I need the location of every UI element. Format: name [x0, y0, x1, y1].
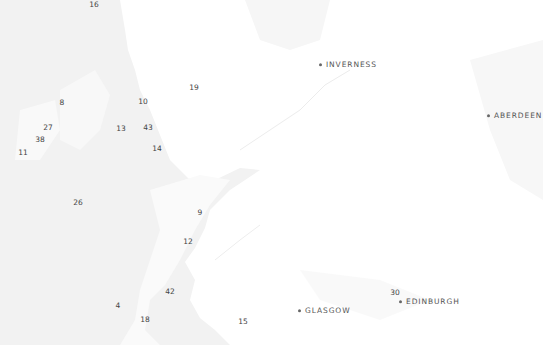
- map-marker[interactable]: 16: [89, 1, 99, 9]
- map-marker[interactable]: 43: [143, 124, 153, 132]
- map-marker[interactable]: 8: [60, 99, 65, 107]
- city-name: INVERNESS: [326, 61, 377, 69]
- city-dot-icon: [487, 115, 490, 118]
- city-name: GLASGOW: [305, 307, 351, 315]
- city-label-edinburgh[interactable]: EDINBURGH: [399, 298, 460, 306]
- map-marker[interactable]: 38: [35, 136, 45, 144]
- city-dot-icon: [399, 301, 402, 304]
- city-name: ABERDEEN: [494, 112, 542, 120]
- map-marker[interactable]: 19: [189, 84, 199, 92]
- map-marker[interactable]: 9: [198, 209, 203, 217]
- map-marker[interactable]: 42: [165, 288, 175, 296]
- city-dot-icon: [298, 310, 301, 313]
- city-name: EDINBURGH: [406, 298, 460, 306]
- map-marker[interactable]: 13: [116, 125, 126, 133]
- map-marker[interactable]: 14: [152, 145, 162, 153]
- map-marker[interactable]: 27: [43, 124, 53, 132]
- city-label-inverness[interactable]: INVERNESS: [319, 61, 377, 69]
- city-label-aberdeen[interactable]: ABERDEEN: [487, 112, 542, 120]
- map-marker[interactable]: 15: [238, 318, 248, 326]
- map-canvas[interactable]: INVERNESS ABERDEEN GLASGOW EDINBURGH 16 …: [0, 0, 543, 345]
- city-label-glasgow[interactable]: GLASGOW: [298, 307, 351, 315]
- map-marker[interactable]: 12: [183, 238, 193, 246]
- city-dot-icon: [319, 64, 322, 67]
- map-marker[interactable]: 26: [73, 199, 83, 207]
- map-marker[interactable]: 11: [18, 149, 28, 157]
- scotland-landmass: [0, 0, 543, 345]
- map-marker[interactable]: 18: [140, 316, 150, 324]
- map-marker[interactable]: 30: [390, 289, 400, 297]
- map-marker[interactable]: 4: [116, 302, 121, 310]
- map-marker[interactable]: 10: [138, 98, 148, 106]
